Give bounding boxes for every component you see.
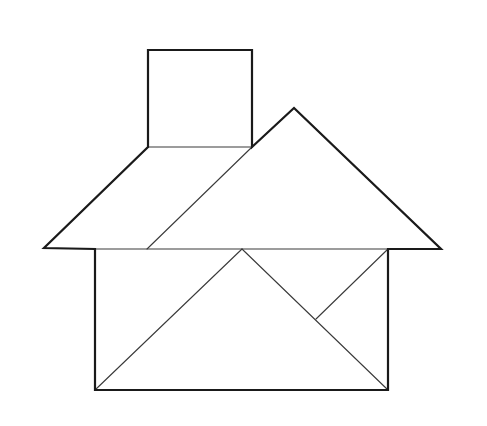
- tangram-house-diagram: Tangram house: [0, 0, 487, 426]
- diagram-svg: [0, 0, 487, 426]
- tangram-pieces: [44, 50, 441, 390]
- chimney-square: [148, 50, 252, 147]
